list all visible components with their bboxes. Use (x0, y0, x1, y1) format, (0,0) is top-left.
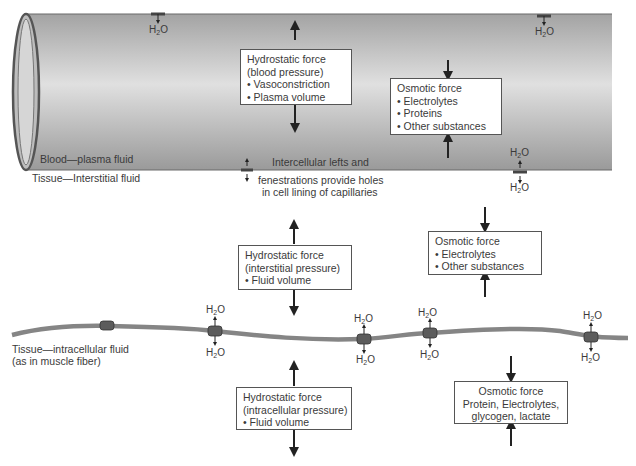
h2o-label: H2O (583, 311, 602, 324)
h2o-label: H2O (420, 350, 439, 363)
h2o-label: H2O (418, 308, 437, 321)
box-line: glycogen, lactate (461, 410, 561, 423)
osmotic-interstitial-box: Osmotic force • Electrolytes • Other sub… (428, 231, 542, 275)
box-title: Osmotic force (435, 235, 535, 248)
osmotic-blood-box: Osmotic force • Electrolytes • Proteins … (390, 78, 502, 135)
box-bullet: • Plasma volume (247, 91, 345, 104)
membrane-channel-2 (208, 318, 222, 344)
box-subtitle: (intracellular pressure) (243, 404, 345, 417)
capillary-note-line1: Intercellular lefts and (272, 156, 369, 168)
h2o-label: H2O (535, 27, 554, 40)
intracellular-fluid-sublabel: (as in muscle fiber) (12, 355, 101, 367)
box-title: Hydrostatic force (243, 391, 345, 404)
membrane-channel-1 (100, 321, 114, 330)
box-bullet: • Proteins (397, 107, 495, 120)
h2o-label: H2O (581, 353, 600, 366)
box-title: Osmotic force (397, 82, 495, 95)
membrane-channel-4 (423, 320, 437, 346)
hydrostatic-intracellular-box: Hydrostatic force (intracellular pressur… (236, 387, 352, 430)
box-title: Osmotic force (461, 385, 561, 398)
blood-plasma-label: Blood—plasma fluid (40, 153, 133, 165)
box-subtitle: (interstitial pressure) (245, 262, 345, 275)
h2o-label: H2O (149, 25, 168, 38)
hydrostatic-blood-box: Hydrostatic force (blood pressure) • Vas… (240, 49, 352, 105)
capillary-note-line2: fenestrations provide holes (258, 174, 384, 186)
box-bullet: • Other substances (397, 120, 495, 133)
box-bullet: • Fluid volume (243, 416, 345, 429)
box-bullet: • Fluid volume (245, 274, 345, 287)
box-bullet: • Electrolytes (397, 95, 495, 108)
membrane-channel-5 (584, 324, 598, 350)
hydrostatic-interstitial-box: Hydrostatic force (interstitial pressure… (238, 245, 352, 290)
box-subtitle: (blood pressure) (247, 66, 345, 79)
box-title: Hydrostatic force (247, 53, 345, 66)
box-line: Protein, Electrolytes, (461, 398, 561, 411)
membrane-channel-3 (357, 326, 371, 352)
capillary-note-line3: in cell lining of capillaries (262, 186, 378, 198)
osmotic-intracellular-box: Osmotic force Protein, Electrolytes, gly… (454, 381, 568, 424)
interstitial-fluid-label: Tissue—Interstitial fluid (32, 172, 140, 184)
h2o-label: H2O (206, 348, 225, 361)
box-bullet: • Vasoconstriction (247, 78, 345, 91)
box-bullet: • Electrolytes (435, 248, 535, 261)
h2o-label: H2O (510, 148, 529, 161)
h2o-label: H2O (206, 305, 225, 318)
box-bullet: • Other substances (435, 260, 535, 273)
h2o-label: H2O (354, 314, 373, 327)
h2o-label: H2O (510, 183, 529, 196)
intracellular-fluid-label: Tissue—intracellular fluid (12, 343, 129, 355)
box-title: Hydrostatic force (245, 249, 345, 262)
h2o-label: H2O (356, 355, 375, 368)
